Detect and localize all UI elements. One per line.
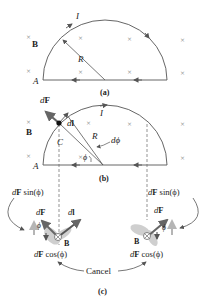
radius-label: R xyxy=(77,54,84,64)
radius-label: R xyxy=(91,131,98,141)
magnetic-force-semicircle-diagram: × × × × × × × × I B R A (a) × × × × xyxy=(0,0,208,304)
dl-label: dl xyxy=(67,118,75,128)
left-force-decomposition: dF sin(ϕ) dF dl ϕ B dF cos(ϕ) xyxy=(8,187,80,259)
phi-label: ϕ xyxy=(37,221,41,230)
curved-pointer xyxy=(180,198,198,228)
semicircle-wire xyxy=(43,20,167,80)
panel-a: × × × × × × × × I B R A (a) xyxy=(26,11,185,97)
right-force-decomposition: dF sin(ϕ) dF ϕ B dF cos(ϕ) xyxy=(129,187,198,259)
svg-text:×: × xyxy=(26,33,31,40)
svg-text:×: × xyxy=(78,34,83,41)
curved-pointer xyxy=(8,198,24,230)
svg-text:×: × xyxy=(127,35,132,42)
point-a-label: A xyxy=(32,76,39,86)
field-label: B xyxy=(26,127,32,137)
cancel-label: Cancel xyxy=(86,266,111,276)
current-label: I xyxy=(75,11,80,21)
point-a-label: A xyxy=(32,161,39,171)
force-label: dF xyxy=(40,95,51,105)
semicircle-wire xyxy=(43,105,167,165)
cos-component-label: dF cos(ϕ) xyxy=(130,249,163,259)
current-arrow-icon xyxy=(145,33,149,38)
svg-text:×: × xyxy=(180,154,185,161)
panel-c: dF sin(ϕ) dF dl ϕ B dF cos(ϕ) dF sin(ϕ) xyxy=(8,187,198,296)
caption-c: (c) xyxy=(98,287,107,296)
svg-text:×: × xyxy=(127,120,132,127)
dl-arrow-icon xyxy=(58,220,80,237)
svg-text:×: × xyxy=(26,152,31,159)
force-label: dF xyxy=(154,205,163,215)
svg-text:×: × xyxy=(86,119,91,126)
phi-label: ϕ xyxy=(83,153,87,162)
field-label: B xyxy=(32,39,38,49)
dphi-pointer xyxy=(97,142,110,147)
current-element-dot xyxy=(56,120,61,125)
svg-text:×: × xyxy=(127,68,132,75)
phi-arc xyxy=(89,156,91,162)
caption-b: (b) xyxy=(99,174,109,183)
caption-a: (a) xyxy=(100,88,110,97)
svg-text:×: × xyxy=(26,118,31,125)
svg-text:×: × xyxy=(180,69,185,76)
cancel-arrow-right xyxy=(118,262,146,271)
field-label: B xyxy=(64,239,70,248)
current-arrow-icon xyxy=(66,24,72,28)
svg-text:×: × xyxy=(78,68,83,75)
phi-label: ϕ xyxy=(162,223,166,232)
svg-text:×: × xyxy=(26,67,31,74)
sin-component-label: dF sin(ϕ) xyxy=(148,187,180,197)
svg-text:×: × xyxy=(180,120,185,127)
sin-component-label: dF sin(ϕ) xyxy=(12,187,44,197)
svg-text:×: × xyxy=(180,36,185,43)
dl-label: dl xyxy=(68,207,75,217)
dphi-label: dϕ xyxy=(111,135,121,145)
current-label: I xyxy=(99,108,104,118)
radius-line xyxy=(63,40,105,80)
cos-component-label: dF cos(ϕ) xyxy=(34,249,67,259)
field-label: B xyxy=(134,237,140,246)
cancel-arrow-left xyxy=(58,262,84,271)
force-label: dF xyxy=(36,207,45,217)
center-label: C xyxy=(57,137,64,147)
